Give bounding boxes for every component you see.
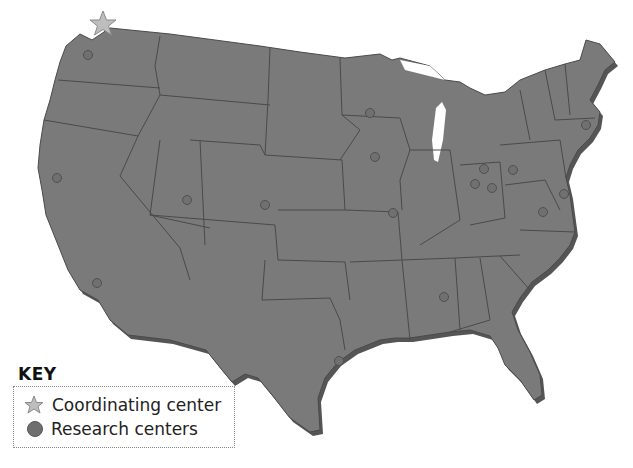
research-center-dot xyxy=(261,201,270,210)
key-item-research-centers: Research centers xyxy=(24,419,198,439)
key-legend: Coordinating center Research centers xyxy=(13,386,235,448)
key-title: KEY xyxy=(18,364,57,384)
key-item-label: Coordinating center xyxy=(52,395,221,415)
research-center-dot xyxy=(440,293,449,302)
star-icon xyxy=(24,395,44,415)
research-center-dot xyxy=(539,208,548,217)
research-center-dot xyxy=(509,166,518,175)
research-center-dot xyxy=(335,357,344,366)
research-center-dot xyxy=(471,180,480,189)
research-center-dot xyxy=(480,165,489,174)
research-center-dot xyxy=(53,174,62,183)
research-center-dot xyxy=(582,121,591,130)
research-center-dot xyxy=(366,109,375,118)
key-item-label: Research centers xyxy=(51,419,198,439)
key-item-coordinating-center: Coordinating center xyxy=(24,395,221,415)
dot-icon xyxy=(27,421,43,437)
research-center-dot xyxy=(389,209,398,218)
research-center-dot xyxy=(488,184,497,193)
research-center-dot xyxy=(183,196,192,205)
research-center-dot xyxy=(560,190,569,199)
research-center-dot xyxy=(371,153,380,162)
research-center-dot xyxy=(93,279,102,288)
research-center-dot xyxy=(84,51,93,60)
